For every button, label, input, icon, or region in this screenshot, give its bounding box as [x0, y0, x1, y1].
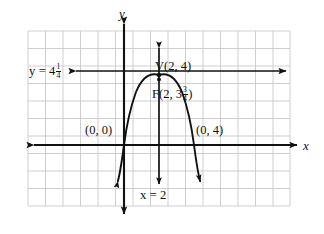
x-intercept-right-label: (0, 4) — [196, 124, 223, 137]
directrix-label: y = 414 — [29, 63, 62, 80]
x-intercept-left-label: (0, 0) — [85, 124, 112, 137]
x-axis-label: x — [303, 139, 309, 152]
focus-label-whole: 3 — [176, 87, 182, 101]
axis-of-symmetry-value: 2 — [160, 188, 166, 202]
vertex-label-name: V — [155, 59, 164, 73]
directrix-label-whole: 4 — [49, 64, 55, 78]
directrix-fraction-denominator: 4 — [56, 71, 62, 80]
focus-label-name: F — [152, 87, 159, 101]
axis-of-symmetry-equals: = — [150, 188, 157, 202]
y-axis-label: y — [119, 7, 125, 20]
vertex-label: V(2, 4) — [155, 60, 191, 73]
directrix-label-equals: = — [39, 64, 46, 78]
axis-of-symmetry-label: x = 2 — [140, 189, 166, 202]
focus-point — [157, 78, 161, 82]
focus-label: F(2, 334) — [152, 86, 192, 103]
vertex-point — [157, 73, 161, 77]
parabola-graph-figure: y = 414 V(2, 4) F(2, 334) (0, 0) (0, 4) … — [0, 0, 324, 234]
directrix-label-fraction: 14 — [56, 63, 62, 80]
directrix-fraction-numerator: 1 — [56, 63, 62, 71]
